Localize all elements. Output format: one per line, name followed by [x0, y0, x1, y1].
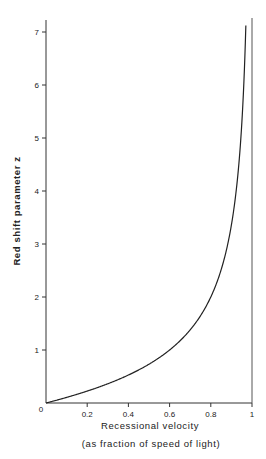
x-tick-label: 0.2 — [82, 410, 94, 419]
y-tick-label: 5 — [35, 134, 40, 143]
y-tick-label: 3 — [35, 240, 40, 249]
origin-label: 0 — [39, 405, 44, 414]
y-axis-label: Red shift parameter z — [11, 156, 22, 265]
y-tick-label: 2 — [35, 293, 40, 302]
x-ticks: 0.20.40.60.81 — [82, 403, 255, 419]
x-axis-label: Recessional velocity — [101, 420, 199, 431]
redshift-curve — [46, 26, 246, 403]
x-tick-label: 1 — [250, 410, 255, 419]
y-tick-label: 6 — [35, 81, 40, 90]
x-axis-sublabel: (as fraction of speed of light) — [82, 438, 220, 449]
y-tick-label: 1 — [35, 346, 40, 355]
x-tick-label: 0.6 — [164, 410, 176, 419]
y-tick-label: 4 — [35, 187, 40, 196]
redshift-chart: 1234567 0.20.40.60.81 0 Red shift parame… — [0, 0, 266, 459]
y-ticks: 1234567 — [35, 28, 46, 355]
x-tick-label: 0.4 — [123, 410, 135, 419]
axes — [46, 18, 252, 403]
x-tick-label: 0.8 — [205, 410, 217, 419]
y-tick-label: 7 — [35, 28, 40, 37]
